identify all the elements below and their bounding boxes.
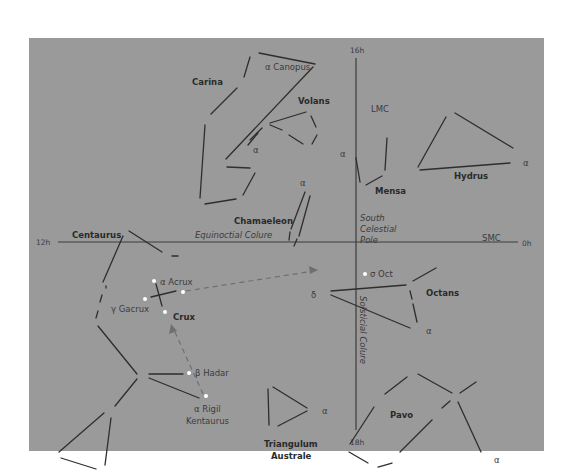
label-rigil-1: α Rigil <box>194 404 221 414</box>
star-acrux <box>152 279 156 283</box>
label-carina: Carina <box>192 77 223 87</box>
label-hydrus: Hydrus <box>454 171 488 181</box>
label-mensa: Mensa <box>375 186 406 196</box>
star-gacrux <box>143 297 147 301</box>
star-rigil-kentaurus <box>204 394 208 398</box>
star-hadar <box>187 371 191 375</box>
label-rigil-2: Kentaurus <box>186 416 230 426</box>
label-triangulum-2: Australe <box>271 451 312 461</box>
label-centaurus: Centaurus <box>72 230 121 240</box>
label-hadar: β Hadar <box>195 368 229 378</box>
axis-label-16h: 16h <box>350 46 365 55</box>
label-alpha-chamaeleon: α <box>300 178 306 188</box>
label-alpha-triangulum: α <box>322 406 328 416</box>
label-canopus: α Canopus <box>265 62 311 72</box>
label-pavo: Pavo <box>390 410 413 420</box>
southern-sky-star-chart: 16h 18h 12h 0h Equinoctial Colure Solsti… <box>0 0 567 475</box>
label-gacrux: γ Gacrux <box>111 304 149 314</box>
label-smc: SMC <box>482 233 501 243</box>
star-crux-delta <box>163 310 167 314</box>
label-lmc: LMC <box>371 104 389 114</box>
axis-label-0h: 0h <box>522 239 532 248</box>
label-crux: Crux <box>173 312 195 322</box>
axis-label-18h: 18h <box>350 438 365 447</box>
solsticial-colure-label: Solsticial Colure <box>358 296 368 364</box>
label-octans: Octans <box>426 288 459 298</box>
south-celestial-pole-label-1: South <box>360 213 385 223</box>
label-alpha-mensa: α <box>340 149 346 159</box>
star-sigma-oct <box>363 272 367 276</box>
label-alpha-hydrus: α <box>523 158 529 168</box>
equinoctial-colure-label: Equinoctial Colure <box>195 230 272 240</box>
label-volans: Volans <box>298 96 330 106</box>
label-triangulum-1: Triangulum <box>264 439 318 449</box>
label-alpha-pavo: α <box>494 455 500 465</box>
south-celestial-pole-label-3: Pole <box>360 235 378 245</box>
label-alpha-volans: α <box>253 145 259 155</box>
label-delta-oct: δ <box>311 290 316 300</box>
label-chamaeleon: Chamaeleon <box>234 216 293 226</box>
label-sigma-oct: σ Oct <box>370 269 393 279</box>
star-crux-beta <box>181 290 185 294</box>
south-celestial-pole-label-2: Celestial <box>360 224 397 234</box>
axis-label-12h: 12h <box>36 238 51 247</box>
label-alpha-oct: α <box>426 326 432 336</box>
label-acrux: α Acrux <box>160 277 193 287</box>
